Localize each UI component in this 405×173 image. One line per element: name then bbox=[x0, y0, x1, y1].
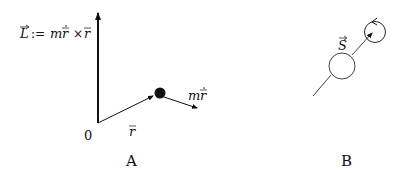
svg-text:m: m bbox=[50, 26, 62, 41]
panel-b: S B bbox=[313, 18, 386, 170]
svg-text:m: m bbox=[188, 88, 200, 103]
origin-label: 0 bbox=[84, 128, 92, 143]
particle bbox=[155, 88, 166, 99]
panel-b-caption: B bbox=[341, 152, 352, 170]
panel-a: L := m r × r m r 0 r bbox=[19, 13, 207, 170]
svg-text::=: := bbox=[31, 27, 45, 41]
momentum-label: m r bbox=[188, 87, 207, 103]
spin-label: S bbox=[338, 36, 347, 53]
svg-text:S: S bbox=[338, 38, 347, 53]
position-vector-label: r bbox=[129, 124, 136, 139]
position-vector bbox=[98, 96, 153, 123]
physics-diagram: L := m r × r m r 0 r bbox=[0, 0, 405, 173]
panel-a-caption: A bbox=[125, 152, 137, 170]
angular-momentum-label: L := m r × r bbox=[19, 25, 91, 41]
spin-axis bbox=[313, 75, 331, 96]
svg-text:×: × bbox=[73, 27, 83, 41]
spinning-body bbox=[329, 53, 355, 79]
rotation-indicator bbox=[365, 22, 386, 43]
